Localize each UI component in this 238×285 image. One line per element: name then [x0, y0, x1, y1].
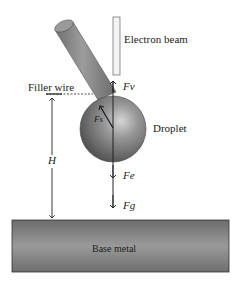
fs-label: Fs — [94, 115, 103, 124]
filler-wire-label: Filler wire — [28, 82, 74, 93]
fv-label: Fv — [123, 81, 135, 92]
droplet-label: Droplet — [153, 123, 187, 134]
fg-label: Fg — [123, 200, 135, 211]
height-label: H — [48, 155, 56, 166]
base-metal-label: Base metal — [92, 244, 136, 254]
fe-label: Fe — [123, 170, 135, 181]
electron-beam-label: Electron beam — [124, 34, 188, 45]
electron-beam-shape — [113, 17, 120, 75]
